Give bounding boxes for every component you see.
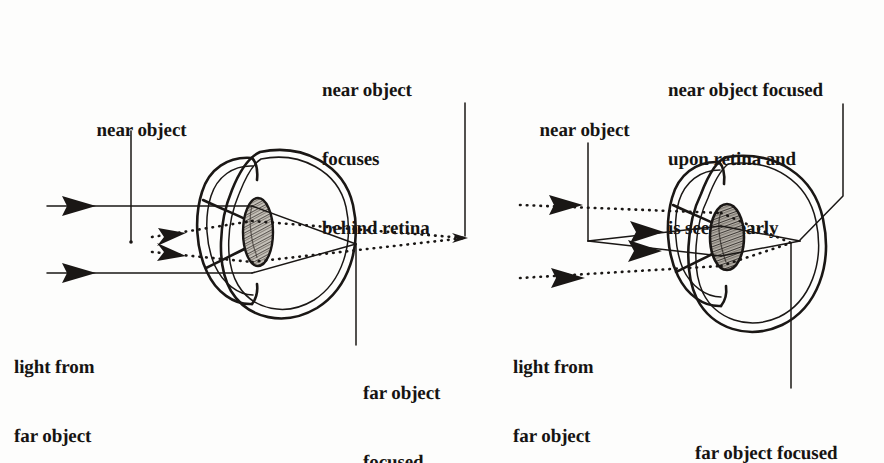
left-far-ray-lower-arrowhead xyxy=(62,263,96,283)
diagram-canvas: near object near object focuses behind r… xyxy=(0,0,884,463)
right-far-ray-upper-arrowhead xyxy=(549,195,583,215)
left-eye-limbus-bottom xyxy=(252,284,257,304)
right-eye-lens xyxy=(710,204,744,270)
left-near-object-pointer-dot xyxy=(129,240,133,244)
right-near-focus-pointer xyxy=(800,104,843,240)
diagram-artwork: .ink{stroke:#1a1715;fill:none;stroke-lin… xyxy=(0,0,884,463)
left-eye-limbus-top xyxy=(252,158,257,180)
right-near-ray-lower-arrowhead xyxy=(628,240,662,262)
left-eye-diagram xyxy=(47,103,468,345)
right-far-ray-lower-arrowhead xyxy=(551,268,585,288)
right-far-ray-upper-incoming xyxy=(520,205,721,213)
left-near-ray-lower-arrowhead xyxy=(157,243,186,261)
right-eye-limbus-bottom xyxy=(721,286,726,306)
right-near-ray-upper-arrowhead xyxy=(630,221,664,243)
left-near-ray-lower-refracted xyxy=(252,238,465,262)
right-near-ray-lower-incoming xyxy=(588,241,721,256)
left-near-ray-upper-refracted xyxy=(252,221,465,238)
left-near-ray-upper-arrowhead xyxy=(157,228,186,246)
left-far-ray-upper-arrowhead xyxy=(62,196,96,216)
right-eye-diagram xyxy=(520,104,843,388)
